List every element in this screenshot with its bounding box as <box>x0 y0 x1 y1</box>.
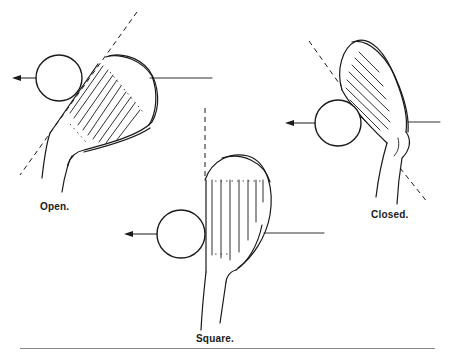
square-label: Square. <box>196 333 234 344</box>
open-direction-arrow-icon <box>12 75 36 81</box>
closed-label: Closed. <box>371 209 409 220</box>
square-panel <box>124 108 324 330</box>
closed-panel <box>285 40 440 204</box>
closed-face-line-upper <box>309 41 341 86</box>
closed-direction-arrow-icon <box>285 120 315 126</box>
square-clubhead-icon <box>201 155 271 330</box>
square-direction-arrow-icon <box>124 231 157 237</box>
page-divider <box>20 348 435 349</box>
clubface-diagram <box>0 0 451 361</box>
open-label: Open. <box>40 201 69 212</box>
square-ball-icon <box>157 210 205 258</box>
open-panel <box>12 12 212 192</box>
square-grooves <box>212 180 263 260</box>
open-ball-icon <box>36 55 82 101</box>
open-face-line <box>20 12 137 175</box>
closed-ball-icon <box>315 100 361 146</box>
closed-face-line-lower <box>400 168 428 203</box>
